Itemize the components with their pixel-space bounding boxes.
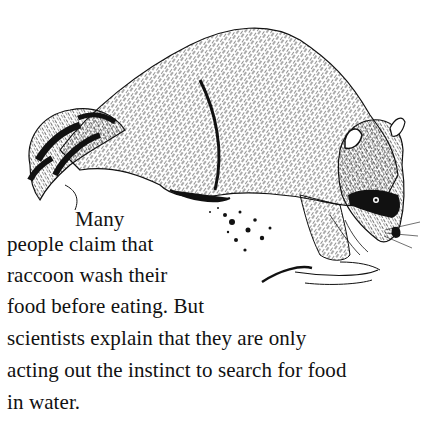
passage-line: in water. (7, 390, 80, 414)
passage-line: acting out the instinct to search for fo… (7, 358, 347, 382)
passage-line: raccoon wash their (7, 263, 167, 287)
passage-line: food before eating. But (7, 294, 204, 318)
passage-line: scientists explain that they are only (7, 326, 306, 350)
passage: Many people claim that raccoon wash thei… (0, 0, 422, 424)
passage-line: people claim that (7, 232, 153, 256)
passage-line: Many (75, 207, 124, 231)
